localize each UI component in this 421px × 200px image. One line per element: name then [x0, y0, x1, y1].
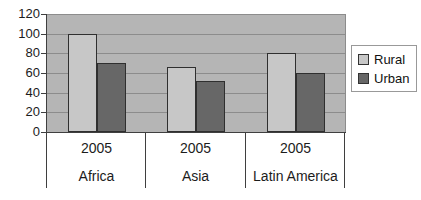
legend-label-urban: Urban [374, 71, 409, 86]
y-axis-tick [41, 73, 46, 74]
y-axis-tick [41, 14, 46, 15]
y-tick-label: 100 [0, 27, 40, 41]
category-separator [344, 132, 345, 188]
y-tick-label: 40 [0, 86, 40, 100]
category-region-label: Africa [47, 168, 146, 184]
category-separator [245, 132, 246, 188]
y-axis-tick [41, 34, 46, 35]
y-tick-label: 20 [0, 105, 40, 119]
category-year-label: 2005 [246, 140, 345, 156]
category-region-label: Asia [146, 168, 245, 184]
category-separator [46, 132, 47, 188]
plot-right-border [345, 14, 346, 132]
legend-entry-urban: Urban [358, 69, 416, 88]
y-axis-tick [41, 112, 46, 113]
legend: RuralUrban [351, 45, 417, 92]
y-tick-label: 120 [0, 7, 40, 21]
y-tick-label: 60 [0, 66, 40, 80]
bar-rural-latin-america [267, 53, 296, 132]
legend-swatch-urban [358, 73, 369, 84]
category-year-label: 2005 [47, 140, 146, 156]
gridline [47, 14, 345, 15]
legend-entry-rural: Rural [358, 50, 416, 69]
category-separator [145, 132, 146, 188]
y-tick-label: 0 [0, 125, 40, 139]
bar-urban-latin-america [296, 73, 325, 132]
plot-area [47, 14, 345, 132]
y-axis-line [46, 14, 47, 133]
y-tick-label: 80 [0, 46, 40, 60]
category-year-label: 2005 [146, 140, 245, 156]
y-axis-tick [41, 53, 46, 54]
bar-urban-asia [196, 81, 225, 132]
bar-rural-africa [68, 34, 97, 132]
legend-swatch-rural [358, 54, 369, 65]
y-axis-tick [41, 93, 46, 94]
bar-urban-africa [97, 63, 126, 132]
bar-rural-asia [167, 67, 196, 132]
rural-urban-bar-chart: 020406080100120 2005Africa2005Asia2005La… [0, 0, 421, 200]
category-region-label: Latin America [246, 168, 345, 184]
x-axis-line [46, 132, 346, 133]
legend-label-rural: Rural [374, 52, 405, 67]
